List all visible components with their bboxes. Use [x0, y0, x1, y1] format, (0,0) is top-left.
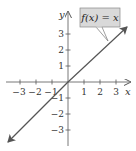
y-axis-label: y: [58, 9, 65, 20]
x-tick-label: 1: [81, 87, 87, 97]
y-tick-label: −3: [51, 125, 65, 135]
y-tick-label: 1: [58, 61, 64, 71]
x-tick-label: −2: [28, 87, 41, 97]
function-label: f(x) = x: [80, 12, 119, 23]
x-tick-label: −3: [12, 87, 26, 97]
y-tick-label: 3: [58, 29, 64, 39]
x-tick-label: 2: [97, 87, 103, 97]
function-line: [68, 27, 127, 82]
y-tick-label: 2: [58, 45, 64, 55]
x-tick-label: 3: [113, 87, 119, 97]
x-tick-labels: −3 −2 −1 1 2 3: [12, 87, 119, 97]
y-tick-label: −2: [51, 109, 64, 119]
function-label-callout: f(x) = x: [80, 8, 120, 41]
x-axis-label: x: [125, 86, 131, 97]
graph-canvas: −3 −2 −1 1 2 3 3 2 1 −1 −2 −3 x y f(x) =…: [0, 0, 136, 151]
